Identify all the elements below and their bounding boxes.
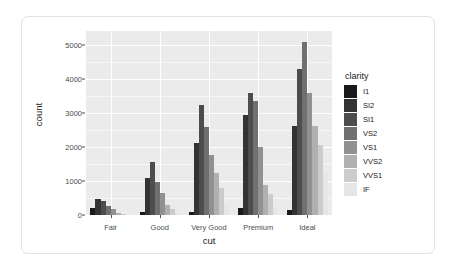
legend-item-label: I1 bbox=[363, 87, 369, 96]
x-axis-tick-label: Good bbox=[151, 223, 169, 232]
y-axis-tick-mark bbox=[82, 180, 85, 181]
legend-title: clarity bbox=[344, 71, 428, 81]
legend-item-label: SI1 bbox=[363, 115, 374, 124]
legend-item-label: VS1 bbox=[363, 143, 377, 152]
legend-items: I1SI2SI1VS2VS1VVS2VVS1IF bbox=[344, 85, 428, 196]
y-axis-tick-mark bbox=[82, 215, 85, 216]
y-axis-tick-mark bbox=[82, 146, 85, 147]
x-axis-tick-mark bbox=[258, 215, 259, 218]
x-axis-tick-label: Fair bbox=[104, 223, 117, 232]
y-axis-tick-mark bbox=[82, 112, 85, 113]
x-axis-tick-label: Premium bbox=[243, 223, 273, 232]
legend-swatch-icon bbox=[344, 85, 357, 98]
y-axis-tick-label: 2000 bbox=[65, 142, 82, 151]
bar-chart: count 010002000300040005000 FairGoodVery… bbox=[22, 17, 436, 255]
legend-swatch-icon bbox=[344, 127, 357, 140]
legend-item-label: VVS2 bbox=[363, 157, 382, 166]
x-axis-tick-mark bbox=[111, 215, 112, 218]
bar bbox=[273, 207, 278, 215]
legend-swatch-icon bbox=[344, 169, 357, 182]
bar-group bbox=[287, 31, 327, 215]
legend-item-i1[interactable]: I1 bbox=[344, 85, 428, 98]
legend: clarity I1SI2SI1VS2VS1VVS2VVS1IF bbox=[344, 71, 428, 197]
legend-swatch-icon bbox=[344, 183, 357, 196]
bar-group bbox=[189, 31, 229, 215]
y-axis-tick-label: 1000 bbox=[65, 176, 82, 185]
plot-panel bbox=[86, 31, 332, 215]
x-axis-title: cut bbox=[86, 235, 332, 246]
bar bbox=[224, 206, 229, 215]
legend-item-label: IF bbox=[363, 185, 370, 194]
legend-item-if[interactable]: IF bbox=[344, 183, 428, 196]
y-axis-title: count bbox=[33, 85, 44, 145]
legend-item-vvs1[interactable]: VVS1 bbox=[344, 169, 428, 182]
legend-swatch-icon bbox=[344, 141, 357, 154]
x-axis-tick-label: Very Good bbox=[191, 223, 226, 232]
bar bbox=[175, 213, 180, 215]
legend-item-label: VVS1 bbox=[363, 171, 382, 180]
x-axis-tick-mark bbox=[160, 215, 161, 218]
bar-group bbox=[90, 31, 130, 215]
y-axis-tick-label: 5000 bbox=[65, 40, 82, 49]
legend-item-label: SI2 bbox=[363, 101, 374, 110]
legend-item-vs2[interactable]: VS2 bbox=[344, 127, 428, 140]
y-axis-tick-label: 4000 bbox=[65, 74, 82, 83]
x-axis-tick-mark bbox=[209, 215, 210, 218]
legend-swatch-icon bbox=[344, 99, 357, 112]
legend-item-label: VS2 bbox=[363, 129, 377, 138]
legend-item-vvs2[interactable]: VVS2 bbox=[344, 155, 428, 168]
y-axis-tick-mark bbox=[82, 44, 85, 45]
legend-item-si1[interactable]: SI1 bbox=[344, 113, 428, 126]
bar bbox=[323, 174, 328, 215]
bar-group bbox=[140, 31, 180, 215]
legend-item-si2[interactable]: SI2 bbox=[344, 99, 428, 112]
legend-item-vs1[interactable]: VS1 bbox=[344, 141, 428, 154]
legend-swatch-icon bbox=[344, 113, 357, 126]
y-axis-tick-label: 3000 bbox=[65, 108, 82, 117]
x-axis-tick-mark bbox=[307, 215, 308, 218]
bar-group bbox=[238, 31, 278, 215]
x-axis-tick-label: Ideal bbox=[299, 223, 315, 232]
y-axis-tick-mark bbox=[82, 78, 85, 79]
legend-swatch-icon bbox=[344, 155, 357, 168]
chart-card: count 010002000300040005000 FairGoodVery… bbox=[21, 16, 435, 254]
y-axis-tick-labels: 010002000300040005000 bbox=[50, 31, 82, 215]
